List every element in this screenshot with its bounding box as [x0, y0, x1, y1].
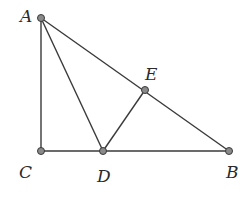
- triangle-diagram: A C D E B: [0, 0, 243, 208]
- label-C: C: [19, 162, 32, 182]
- point-B: [226, 148, 233, 155]
- segment-AB: [41, 18, 229, 151]
- point-C: [38, 148, 45, 155]
- segments: [41, 18, 229, 151]
- point-A: [38, 15, 45, 22]
- point-D: [100, 148, 107, 155]
- label-B: B: [225, 162, 239, 182]
- segment-AD: [41, 18, 103, 151]
- point-E: [142, 87, 149, 94]
- segment-DE: [103, 90, 145, 151]
- label-A: A: [18, 6, 32, 26]
- labels: A C D E B: [18, 6, 239, 186]
- label-E: E: [144, 64, 158, 84]
- label-D: D: [96, 166, 111, 186]
